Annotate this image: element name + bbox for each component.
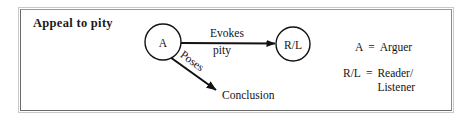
legend-value-arguer: Arguer <box>380 40 412 54</box>
node-arguer-label: A <box>159 37 168 49</box>
legend-key-reader-listener: R/L <box>343 66 361 80</box>
edge-label-poses: Poses <box>178 48 207 73</box>
legend-value-reader-listener-wrap: Reader/ Listener <box>377 66 415 94</box>
figure-appeal-to-pity: Appeal to pity A R/L Evokes pity Poses C… <box>0 0 474 125</box>
node-reader-listener-label: R/L <box>284 39 302 51</box>
diagram-canvas: A R/L Evokes pity Poses Conclusion <box>0 0 474 125</box>
legend-equals-reader-listener: = <box>366 66 373 80</box>
legend-equals-arguer: = <box>368 40 375 54</box>
terminal-conclusion-label: Conclusion <box>222 89 275 101</box>
legend-row-arguer: A = Arguer <box>355 40 412 54</box>
legend-key-arguer: A <box>355 40 363 54</box>
edge-label-evokes: Evokes <box>210 27 244 39</box>
edge-label-pity: pity <box>213 44 231 57</box>
legend-value-reader-listener-line1: Reader/ <box>377 67 413 79</box>
legend-row-reader-listener: R/L = Reader/ Listener <box>343 66 415 94</box>
legend-value-reader-listener-line2: Listener <box>377 80 415 94</box>
